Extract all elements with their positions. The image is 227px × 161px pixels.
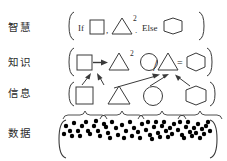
data-dot bbox=[186, 120, 190, 124]
data-dot bbox=[208, 129, 212, 133]
wisdom-token-if: If bbox=[78, 23, 84, 33]
arrow-info-triangle-to-know-square bbox=[97, 73, 104, 85]
wisdom-triangle-icon bbox=[112, 18, 132, 34]
data-dot bbox=[136, 130, 140, 134]
wisdom-token-exponent: 2 bbox=[133, 14, 137, 23]
diagram-vector-layer: If , 2 . Else 2 / = bbox=[0, 0, 227, 161]
information-square-icon bbox=[76, 87, 93, 104]
data-dot bbox=[122, 136, 126, 140]
data-dot bbox=[98, 134, 102, 138]
data-dot bbox=[204, 124, 208, 128]
data-dot bbox=[70, 134, 74, 138]
data-dot bbox=[166, 135, 170, 139]
data-dot bbox=[92, 124, 96, 128]
data-dot bbox=[198, 136, 202, 140]
bracket-left-knowledge bbox=[69, 48, 74, 76]
data-dot bbox=[110, 120, 114, 124]
data-dot bbox=[138, 136, 142, 140]
data-dot bbox=[84, 120, 88, 124]
data-dot bbox=[94, 119, 98, 123]
data-dot bbox=[156, 131, 160, 135]
data-dot bbox=[158, 135, 162, 139]
data-dot bbox=[116, 133, 120, 137]
data-dot bbox=[144, 128, 148, 132]
row-data bbox=[59, 119, 217, 158]
dikw-diagram: 智慧 知识 信息 数据 If , 2 . Else 2 bbox=[0, 0, 227, 161]
data-dot bbox=[140, 122, 144, 126]
data-dot bbox=[202, 132, 206, 136]
data-dot bbox=[192, 126, 196, 130]
data-dot bbox=[188, 130, 192, 134]
row-information bbox=[69, 82, 215, 106]
data-dot bbox=[154, 120, 158, 124]
data-dot bbox=[176, 128, 180, 132]
arrow-info-circle-to-know-triangle bbox=[150, 74, 169, 86]
data-dot bbox=[96, 129, 100, 133]
data-dot bbox=[148, 133, 152, 137]
knowledge-arrow-token bbox=[93, 60, 108, 66]
data-dot bbox=[168, 126, 172, 130]
data-dot bbox=[128, 120, 132, 124]
data-dot bbox=[80, 124, 84, 128]
data-dots-group bbox=[62, 119, 212, 141]
information-hexagon-icon bbox=[186, 86, 206, 105]
wisdom-square-icon bbox=[90, 20, 104, 34]
row-wisdom: If , 2 . Else bbox=[69, 12, 204, 40]
wisdom-hexagon-icon bbox=[164, 18, 182, 34]
data-dot bbox=[68, 129, 72, 133]
data-dot bbox=[104, 125, 108, 129]
data-dot bbox=[64, 124, 68, 128]
data-dot bbox=[108, 136, 112, 140]
arrow-info-triangle-to-know-triangle bbox=[114, 74, 160, 89]
wisdom-token-period: . bbox=[135, 25, 137, 35]
data-brace-group-4 bbox=[178, 111, 222, 119]
bracket-right-data bbox=[210, 120, 217, 158]
knowledge-triangle-icon-right bbox=[158, 53, 178, 70]
data-dot bbox=[106, 131, 110, 135]
data-dot bbox=[120, 123, 124, 127]
arrow-info-hexagon-to-know-triangle bbox=[175, 75, 190, 87]
data-dot bbox=[178, 120, 182, 124]
bracket-left-information bbox=[69, 82, 74, 106]
bracket-right-information bbox=[210, 82, 215, 106]
knowledge-token-slash: / bbox=[153, 57, 158, 74]
knowledge-triangle-icon-left bbox=[109, 53, 129, 70]
knowledge-token-exponent: 2 bbox=[130, 49, 134, 58]
data-dot bbox=[172, 122, 176, 126]
bracket-right-wisdom bbox=[199, 12, 204, 40]
arrow-info-square-to-know-square bbox=[82, 73, 91, 85]
data-dot bbox=[194, 131, 198, 135]
data-dot bbox=[132, 126, 136, 130]
data-dot bbox=[76, 129, 80, 133]
data-dot bbox=[62, 132, 66, 136]
data-dot bbox=[170, 132, 174, 136]
knowledge-square-icon bbox=[77, 55, 92, 70]
knowledge-hexagon-icon bbox=[187, 53, 205, 71]
data-dot bbox=[182, 136, 186, 140]
data-dot bbox=[206, 120, 210, 124]
data-dot bbox=[164, 129, 168, 133]
data-dot bbox=[196, 122, 200, 126]
arrow-group-information-to-knowledge bbox=[82, 73, 190, 88]
data-dot bbox=[160, 124, 164, 128]
wisdom-token-else: Else bbox=[142, 23, 158, 33]
data-dot bbox=[114, 126, 118, 130]
data-dot bbox=[184, 125, 188, 129]
data-dot bbox=[88, 132, 92, 136]
data-dot bbox=[78, 134, 82, 138]
data-dot bbox=[162, 120, 166, 124]
information-circle-icon bbox=[144, 87, 163, 106]
data-dot bbox=[200, 127, 204, 131]
wisdom-token-comma: , bbox=[106, 25, 108, 35]
bracket-right-knowledge bbox=[207, 48, 212, 76]
data-dot bbox=[152, 125, 156, 129]
row-knowledge: 2 / = bbox=[69, 48, 212, 76]
data-dot bbox=[150, 137, 154, 141]
bracket-left-wisdom bbox=[69, 12, 74, 40]
information-triangle-icon bbox=[108, 86, 130, 104]
data-group-braces bbox=[63, 109, 222, 119]
knowledge-token-equals: = bbox=[177, 57, 183, 68]
data-dot bbox=[124, 129, 128, 133]
data-dot bbox=[130, 134, 134, 138]
data-dot bbox=[72, 121, 76, 125]
